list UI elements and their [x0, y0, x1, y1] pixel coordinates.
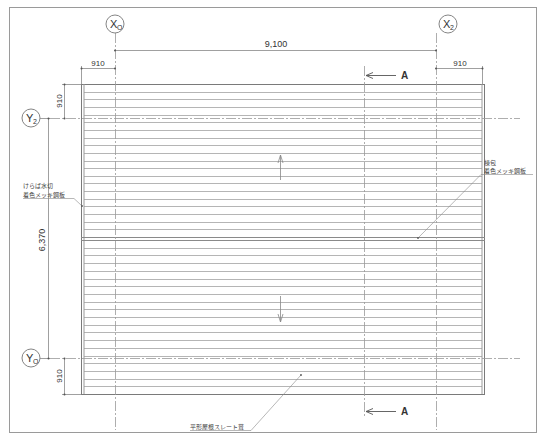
grid-bubble-x0: X O [106, 15, 124, 33]
grid-bubble-y2: Y 2 [22, 109, 40, 127]
svg-text:O: O [117, 24, 123, 31]
svg-text:2: 2 [450, 24, 454, 31]
dim-text-overall-x: 9,100 [265, 39, 288, 49]
svg-text:着色メッキ鋼板: 着色メッキ鋼板 [23, 191, 65, 199]
svg-text:A: A [401, 406, 408, 417]
section-marker-top: A [366, 70, 408, 81]
note-ridge-cap: 棟包 着色メッキ鋼板 [417, 159, 533, 239]
dim-text-bottom-overhang: 910 [55, 369, 64, 383]
svg-text:着色メッキ鋼板: 着色メッキ鋼板 [484, 167, 526, 175]
svg-text:棟包: 棟包 [484, 159, 496, 167]
dim-text-overall-y: 6,370 [37, 229, 47, 252]
grid-bubble-y0: Y O [22, 349, 40, 367]
roof-plan-drawing: X O X 2 Y 2 Y O [0, 0, 546, 440]
drawing-frame [10, 8, 537, 433]
svg-text:平形屋根スレート葺: 平形屋根スレート葺 [190, 423, 244, 431]
svg-text:A: A [401, 70, 408, 81]
slate-rows [84, 93, 482, 387]
note-slate-roofing: 平形屋根スレート葺 [190, 374, 302, 431]
note-verge-flashing: けらば水切 着色メッキ鋼板 [23, 182, 83, 207]
svg-text:2: 2 [33, 118, 37, 125]
dim-text-right-overhang: 910 [453, 59, 467, 68]
section-marker-bottom: A [366, 406, 408, 417]
svg-text:O: O [33, 358, 39, 365]
dim-text-top-overhang: 910 [55, 94, 64, 108]
dim-text-left-overhang: 910 [91, 59, 105, 68]
svg-text:けらば水切: けらば水切 [23, 182, 53, 190]
grid-bubble-x2: X 2 [439, 15, 457, 33]
